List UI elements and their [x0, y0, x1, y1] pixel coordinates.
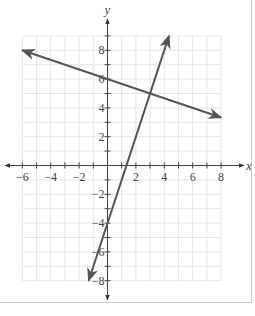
coordinate-plane: −6−4−22468−8−6−4−22468xy [0, 0, 255, 316]
y-axis-label: y [103, 2, 111, 17]
y-tick-label: −4 [92, 216, 105, 230]
x-tick-label: −4 [44, 170, 57, 184]
x-tick-label: 6 [190, 170, 196, 184]
y-tick-label: −8 [92, 274, 105, 288]
x-tick-label: 8 [218, 170, 224, 184]
x-tick-label: −6 [16, 170, 29, 184]
y-tick-label: 8 [99, 43, 105, 57]
y-tick-label: −2 [92, 187, 105, 201]
grid [22, 36, 221, 281]
y-tick-label: 2 [99, 130, 105, 144]
x-tick-label: 2 [133, 170, 139, 184]
x-tick-label: 4 [161, 170, 167, 184]
y-tick-label: 6 [99, 72, 105, 86]
x-axis-label: x [245, 158, 252, 173]
x-tick-label: −2 [73, 170, 86, 184]
axes [5, 19, 244, 300]
y-tick-label: 4 [99, 101, 105, 115]
